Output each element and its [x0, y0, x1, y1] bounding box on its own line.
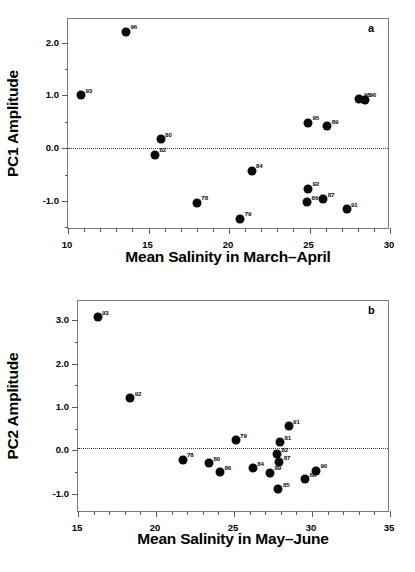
x-tick-label: 25: [228, 522, 239, 533]
x-tick-minor: [261, 228, 262, 232]
x-tick-minor: [358, 228, 359, 232]
x-tick-label: 15: [142, 239, 153, 250]
data-point-label: 86: [224, 464, 231, 471]
data-point-label: 80: [165, 131, 172, 138]
x-tick-major: [310, 228, 311, 234]
data-point: [284, 422, 293, 431]
data-point: [236, 214, 245, 223]
data-point: [265, 468, 274, 477]
x-tick-label: 15: [72, 522, 83, 533]
y-tick-major: [72, 494, 78, 495]
y-tick-minor: [75, 472, 79, 473]
data-point: [215, 468, 224, 477]
y-tick-major: [62, 148, 68, 149]
x-tick-minor: [213, 228, 214, 232]
y-tick-label: 0.0: [41, 444, 69, 455]
panel-b-plot-area: 939278808679848182878985918890: [77, 300, 389, 512]
data-point-label: 96: [130, 23, 137, 30]
y-tick-major: [72, 364, 78, 365]
y-tick-minor: [75, 385, 79, 386]
x-tick-minor: [277, 228, 278, 232]
data-point-label: 84: [257, 460, 264, 467]
data-point: [150, 150, 159, 159]
x-tick-minor: [293, 228, 294, 232]
y-tick-label: 1.0: [41, 401, 69, 412]
data-point-label: 87: [284, 454, 291, 461]
data-point: [323, 122, 332, 131]
y-tick-major: [62, 43, 68, 44]
y-tick-minor: [65, 227, 69, 228]
x-tick-minor: [342, 228, 343, 232]
x-tick-minor: [343, 511, 344, 515]
y-tick-major: [62, 95, 68, 96]
data-point-label: 96: [370, 91, 377, 98]
y-tick-minor: [75, 429, 79, 430]
data-point-label: 89: [332, 118, 339, 125]
panel-b-letter: b: [368, 304, 375, 316]
x-tick-label: 25: [303, 239, 314, 250]
y-tick-label: -1.0: [41, 487, 69, 498]
x-tick-major: [390, 228, 391, 234]
y-tick-minor: [65, 122, 69, 123]
panel-a-y-axis-title: PC1 Amplitude: [4, 18, 30, 229]
panel-a-zero-reference-line: [68, 148, 388, 149]
data-point-label: 82: [159, 146, 166, 153]
data-point-label: 90: [320, 462, 327, 469]
data-point: [303, 184, 312, 193]
data-point-label: 81: [285, 434, 292, 441]
data-point-label: 93: [102, 309, 109, 316]
x-tick-minor: [116, 228, 117, 232]
x-tick-minor: [109, 511, 110, 515]
data-point-label: 86: [312, 194, 319, 201]
data-point: [76, 91, 85, 100]
panel-a-letter: a: [368, 22, 374, 34]
data-point-label: 85: [283, 481, 290, 488]
x-tick-minor: [197, 228, 198, 232]
y-tick-minor: [75, 342, 79, 343]
x-tick-minor: [172, 511, 173, 515]
x-tick-major: [78, 511, 79, 517]
data-point: [205, 459, 214, 468]
figure-scatter-panels: PC1 Amplitude 93968082787984958992868791…: [0, 0, 415, 572]
x-tick-minor: [94, 511, 95, 515]
data-point: [247, 166, 256, 175]
x-tick-minor: [265, 511, 266, 515]
y-tick-label: 3.0: [41, 314, 69, 325]
data-point-label: 93: [85, 87, 92, 94]
x-tick-minor: [100, 228, 101, 232]
data-point-label: 78: [187, 451, 194, 458]
x-tick-label: 10: [62, 239, 73, 250]
data-point-label: 82: [281, 446, 288, 453]
data-point: [274, 485, 283, 494]
data-point: [361, 95, 370, 104]
x-tick-label: 35: [384, 522, 395, 533]
data-point: [93, 313, 102, 322]
y-tick-major: [72, 450, 78, 451]
y-tick-label: 2.0: [41, 357, 69, 368]
data-point: [248, 464, 257, 473]
x-tick-minor: [181, 228, 182, 232]
data-point: [319, 195, 328, 204]
x-tick-major: [390, 511, 391, 517]
data-point-label: 92: [312, 180, 319, 187]
panel-a-plot-area: 939680827879849589928687919896: [67, 18, 389, 229]
x-tick-minor: [374, 511, 375, 515]
x-tick-label: 30: [306, 522, 317, 533]
x-tick-minor: [245, 228, 246, 232]
panel-b-y-axis-title: PC2 Amplitude: [4, 300, 30, 512]
data-point-label: 92: [135, 390, 142, 397]
x-tick-minor: [250, 511, 251, 515]
data-point-label: 91: [351, 201, 358, 208]
y-tick-label: 2.0: [31, 36, 59, 47]
x-tick-minor: [374, 228, 375, 232]
x-tick-minor: [218, 511, 219, 515]
data-point-label: 91: [293, 418, 300, 425]
data-point: [342, 205, 351, 214]
x-tick-minor: [140, 511, 141, 515]
y-tick-label: -1.0: [31, 194, 59, 205]
data-point: [192, 198, 201, 207]
data-point-label: 79: [240, 432, 247, 439]
x-tick-minor: [281, 511, 282, 515]
panel-a: PC1 Amplitude 93968082787984958992868791…: [0, 0, 415, 286]
panel-a-x-axis-title: Mean Salinity in March–April: [67, 248, 389, 266]
